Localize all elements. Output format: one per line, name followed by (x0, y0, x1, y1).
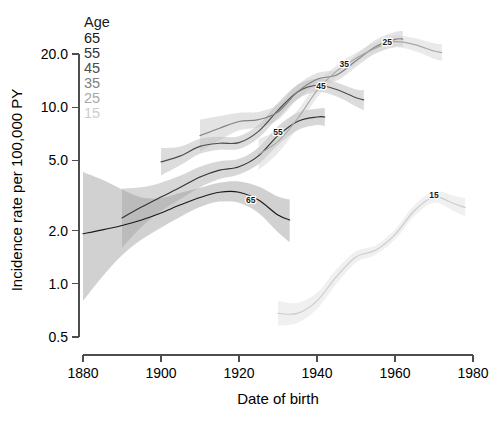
chart-figure: 656555554545353525251515 0.51.02.05.010.… (0, 0, 500, 421)
series-label-45: 45 (316, 81, 326, 91)
legend-entry-65[interactable]: 65 (84, 30, 100, 46)
series-label-55: 55 (273, 127, 283, 137)
confidence-bands-layer (83, 31, 465, 326)
confidence-band-15 (278, 191, 465, 326)
y-axis-title: Incidence rate per 100,000 PY (8, 89, 25, 292)
y-tick-label-0.5: 0.5 (49, 329, 69, 345)
legend-entry-25[interactable]: 25 (84, 90, 100, 106)
incidence-rate-line-chart: 656555554545353525251515 0.51.02.05.010.… (0, 0, 500, 421)
y-tick-label-1.0: 1.0 (49, 276, 69, 292)
y-tick-label-5.0: 5.0 (49, 152, 69, 168)
legend: Age 655545352515 (84, 14, 110, 121)
y-tick-label-20.0: 20.0 (41, 46, 68, 62)
series-lines-layer (83, 39, 465, 315)
x-tick-label-1880: 1880 (67, 365, 98, 381)
legend-title: Age (84, 14, 110, 30)
x-tick-label-1920: 1920 (223, 365, 254, 381)
series-label-35: 35 (340, 59, 350, 69)
series-label-15: 15 (429, 190, 439, 200)
x-tick-label-1940: 1940 (301, 365, 332, 381)
series-label-65: 65 (246, 195, 256, 205)
y-tick-label-10.0: 10.0 (41, 99, 68, 115)
x-tick-label-1980: 1980 (457, 365, 488, 381)
legend-entry-15[interactable]: 15 (84, 105, 100, 121)
x-tick-label-1900: 1900 (145, 365, 176, 381)
x-tick-label-1960: 1960 (379, 365, 410, 381)
x-axis: 188019001920194019601980 (67, 355, 488, 381)
legend-entry-45[interactable]: 45 (84, 60, 100, 76)
legend-entry-55[interactable]: 55 (84, 45, 100, 61)
x-axis-title: Date of birth (237, 390, 319, 407)
y-tick-label-2.0: 2.0 (49, 223, 69, 239)
legend-entry-35[interactable]: 35 (84, 75, 100, 91)
series-label-25: 25 (382, 37, 392, 47)
y-axis: 0.51.02.05.010.020.0 (41, 46, 79, 345)
